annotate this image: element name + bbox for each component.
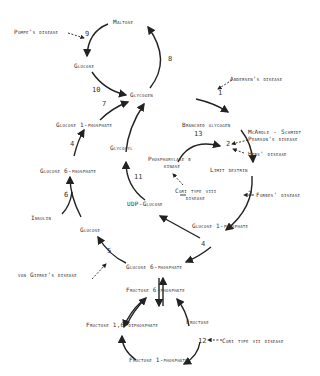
metabolite-glucose-1-phosphate-right: Glucose 1-phosphate bbox=[192, 222, 248, 229]
glycogen-metabolism-diagram: Maltose Glucose Glycogen Branched glycog… bbox=[0, 0, 320, 376]
metabolite-fructose-1-phosphate: Fructose 1-phosphate bbox=[129, 356, 188, 363]
step-12: 12 bbox=[198, 337, 206, 345]
disease-mcardle-line1: McArdle - Schmidt bbox=[248, 128, 301, 135]
metabolite-insulin: Insulin bbox=[31, 214, 51, 221]
metabolite-fructose: Fructose bbox=[186, 318, 209, 325]
disease-pompe: Pompe's disease bbox=[14, 28, 58, 35]
metabolite-glucose-6-phosphate-left: Glucose 6-phosphate bbox=[40, 167, 96, 174]
step-13: 13 bbox=[194, 130, 202, 138]
disease-mcardle-line2: Pearson's disease bbox=[248, 135, 298, 142]
metabolite-fructose-1-6-diphosphate: Fructose 1,6-diphosphate bbox=[86, 321, 158, 328]
step-8: 8 bbox=[168, 55, 172, 63]
pathway-arrows bbox=[0, 0, 320, 376]
step-4-right: 4 bbox=[201, 240, 205, 248]
metabolite-glucose-top: Glucose bbox=[74, 62, 94, 69]
disease-forbes: Forbes' disease bbox=[256, 191, 300, 198]
enzyme-phosphorylase-b-kinase-line2: kinase bbox=[164, 162, 180, 169]
metabolite-glucose-1-phosphate-left: Glucose 1-phosphate bbox=[56, 121, 112, 128]
disease-cori-viii-line1: Cori type viii bbox=[175, 187, 217, 194]
metabolite-maltose: Maltose bbox=[113, 18, 133, 25]
disease-cori-viii-line2: disease bbox=[186, 194, 205, 201]
step-1: 1 bbox=[218, 89, 222, 97]
step-2: 2 bbox=[226, 140, 230, 148]
step-10: 10 bbox=[92, 86, 100, 94]
metabolite-glycogen: Glycogen bbox=[130, 91, 153, 98]
metabolite-glycosyl: Glycosyl bbox=[110, 144, 133, 151]
metabolite-glucose-mid: Glucose bbox=[80, 226, 100, 233]
metabolite-glucose-6-phosphate-center: Glucose 6-phosphate bbox=[126, 263, 182, 270]
metabolite-fructose-6-phosphate: Fructose 6-phosphate bbox=[126, 286, 185, 293]
disease-andersen: Andersen's disease bbox=[230, 75, 282, 82]
disease-hers: Hers' disease bbox=[248, 150, 287, 157]
step-6: 6 bbox=[64, 191, 68, 199]
disease-cori-vii: Cori type vii disease bbox=[222, 337, 284, 344]
metabolite-branched-glycogen: Branched glycogen bbox=[182, 121, 230, 128]
metabolite-limit-dextrin: Limit dextrin bbox=[210, 166, 248, 173]
metabolite-udp-glucose: UDP-Glucose bbox=[127, 200, 163, 207]
step-11: 11 bbox=[134, 173, 142, 181]
step-4-left: 4 bbox=[70, 140, 74, 148]
step-7: 7 bbox=[102, 100, 106, 108]
disease-von-gierke: von Gierke's disease bbox=[18, 271, 77, 278]
step-9: 9 bbox=[85, 30, 89, 38]
step-3: 3 bbox=[248, 190, 252, 198]
step-5: 5 bbox=[107, 247, 111, 255]
enzyme-phosphorylase-b-kinase-line1: Phosphorylase b bbox=[148, 155, 191, 162]
